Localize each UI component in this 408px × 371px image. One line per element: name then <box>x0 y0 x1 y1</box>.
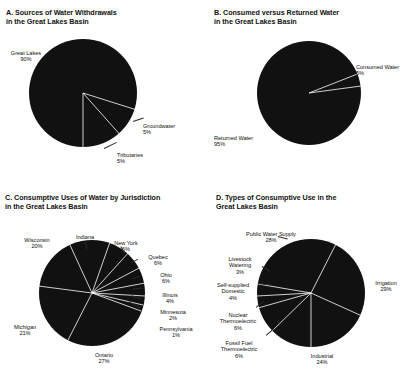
label-irrigation: Irrigation 29% <box>364 273 408 299</box>
label-nuclear-thermoelectric-pct: 6% <box>210 325 266 332</box>
label-consumed-water-pct: 5% <box>356 70 408 77</box>
label-great-lakes-text: Great Lakes <box>11 50 41 56</box>
label-public-water-supply-pct: 28% <box>234 237 308 244</box>
label-great-lakes-pct: 90% <box>2 56 50 63</box>
label-wisconsin-text: Wisconsin <box>24 237 49 243</box>
label-industrial-text: Industrial <box>311 353 334 359</box>
label-fossil-fuel-thermoelectric-text: Fossil Fuel Thermoelectric <box>221 340 258 353</box>
panel-d-title: D. Types of Consumptive Use in the Great… <box>216 193 336 211</box>
panel-c-title: C. Consumptive Uses of Water by Jurisdic… <box>5 193 160 211</box>
label-returned-water: Returned Water 95% <box>214 128 270 154</box>
label-ontario-pct: 27% <box>84 358 124 365</box>
label-irrigation-pct: 29% <box>364 286 408 293</box>
panel-d-types-of-consumptive-use: D. Types of Consumptive Use in the Great… <box>204 185 408 370</box>
label-groundwater: Groundwater 5% <box>143 116 201 142</box>
panel-b-pie-chart <box>256 40 362 146</box>
label-ohio-pct: 6% <box>146 278 186 285</box>
label-fossil-fuel-thermoelectric-pct: 6% <box>208 353 270 360</box>
panel-a-title: A. Sources of Water Withdrawals in the G… <box>6 8 117 26</box>
label-great-lakes: Great Lakes 90% <box>2 43 50 69</box>
label-tributaries: Tributaries 5% <box>117 145 175 171</box>
label-ontario-text: Ontario <box>95 352 113 358</box>
label-michigan-pct: 21% <box>2 330 48 337</box>
label-fossil-fuel-thermoelectric: Fossil Fuel Thermoelectric 6% <box>208 333 270 366</box>
label-new-york-text: New York <box>114 240 137 246</box>
label-self-supplied-domestic-text: Self-supplied Domestic <box>217 282 249 295</box>
label-consumed-water-text: Consumed Water <box>356 64 399 70</box>
label-returned-water-pct: 95% <box>214 141 270 148</box>
label-minnesota-text: Minnesota <box>160 309 186 315</box>
label-wisconsin: Wisconsin 20% <box>14 230 60 256</box>
label-industrial-pct: 24% <box>300 359 344 366</box>
panel-b-consumed-versus-returned-water: B. Consumed versus Returned Water in the… <box>204 0 408 185</box>
label-self-supplied-domestic: Self-supplied Domestic 4% <box>206 275 260 308</box>
figure-sheet: A. Sources of Water Withdrawals in the G… <box>0 0 408 371</box>
label-public-water-supply-text: Public Water Supply <box>246 231 296 237</box>
label-consumed-water: Consumed Water 5% <box>356 57 408 83</box>
label-industrial: Industrial 24% <box>300 346 344 371</box>
label-returned-water-text: Returned Water <box>214 135 253 141</box>
label-illinois-text: Illinois <box>162 292 177 298</box>
label-tributaries-pct: 5% <box>117 158 175 165</box>
label-michigan: Michigan 21% <box>2 317 48 343</box>
label-quebec-text: Quebec <box>148 254 167 260</box>
label-nuclear-thermoelectric-text: Nuclear Thermoelectric <box>220 312 257 325</box>
label-irrigation-text: Irrigation <box>375 280 397 286</box>
panel-b-pie-svg <box>256 40 362 146</box>
label-public-water-supply: Public Water Supply 28% <box>234 224 308 250</box>
panel-b-title: B. Consumed versus Returned Water in the… <box>214 8 339 26</box>
label-pennsylvania-pct: 1% <box>150 332 202 339</box>
label-michigan-text: Michigan <box>14 324 36 330</box>
label-ohio-text: Ohio <box>160 272 172 278</box>
label-wisconsin-pct: 20% <box>14 243 60 250</box>
panel-a-sources-of-water-withdrawals: A. Sources of Water Withdrawals in the G… <box>0 0 204 185</box>
label-ontario: Ontario 27% <box>84 345 124 371</box>
panel-d-pie-svg <box>256 238 366 348</box>
panel-d-pie-chart <box>256 238 366 348</box>
label-indiana-text: Indiana <box>76 234 94 240</box>
label-pennsylvania: Pennsylvania 1% <box>150 319 202 345</box>
panel-c-consumptive-uses-by-jurisdiction: C. Consumptive Uses of Water by Jurisdic… <box>0 185 204 370</box>
label-groundwater-pct: 5% <box>143 129 201 136</box>
label-groundwater-text: Groundwater <box>143 123 175 129</box>
label-tributaries-text: Tributaries <box>117 152 143 158</box>
label-pennsylvania-text: Pennsylvania <box>159 326 192 332</box>
label-self-supplied-domestic-pct: 4% <box>206 295 260 302</box>
label-livestock-watering-text: Livestock Watering <box>228 256 251 269</box>
